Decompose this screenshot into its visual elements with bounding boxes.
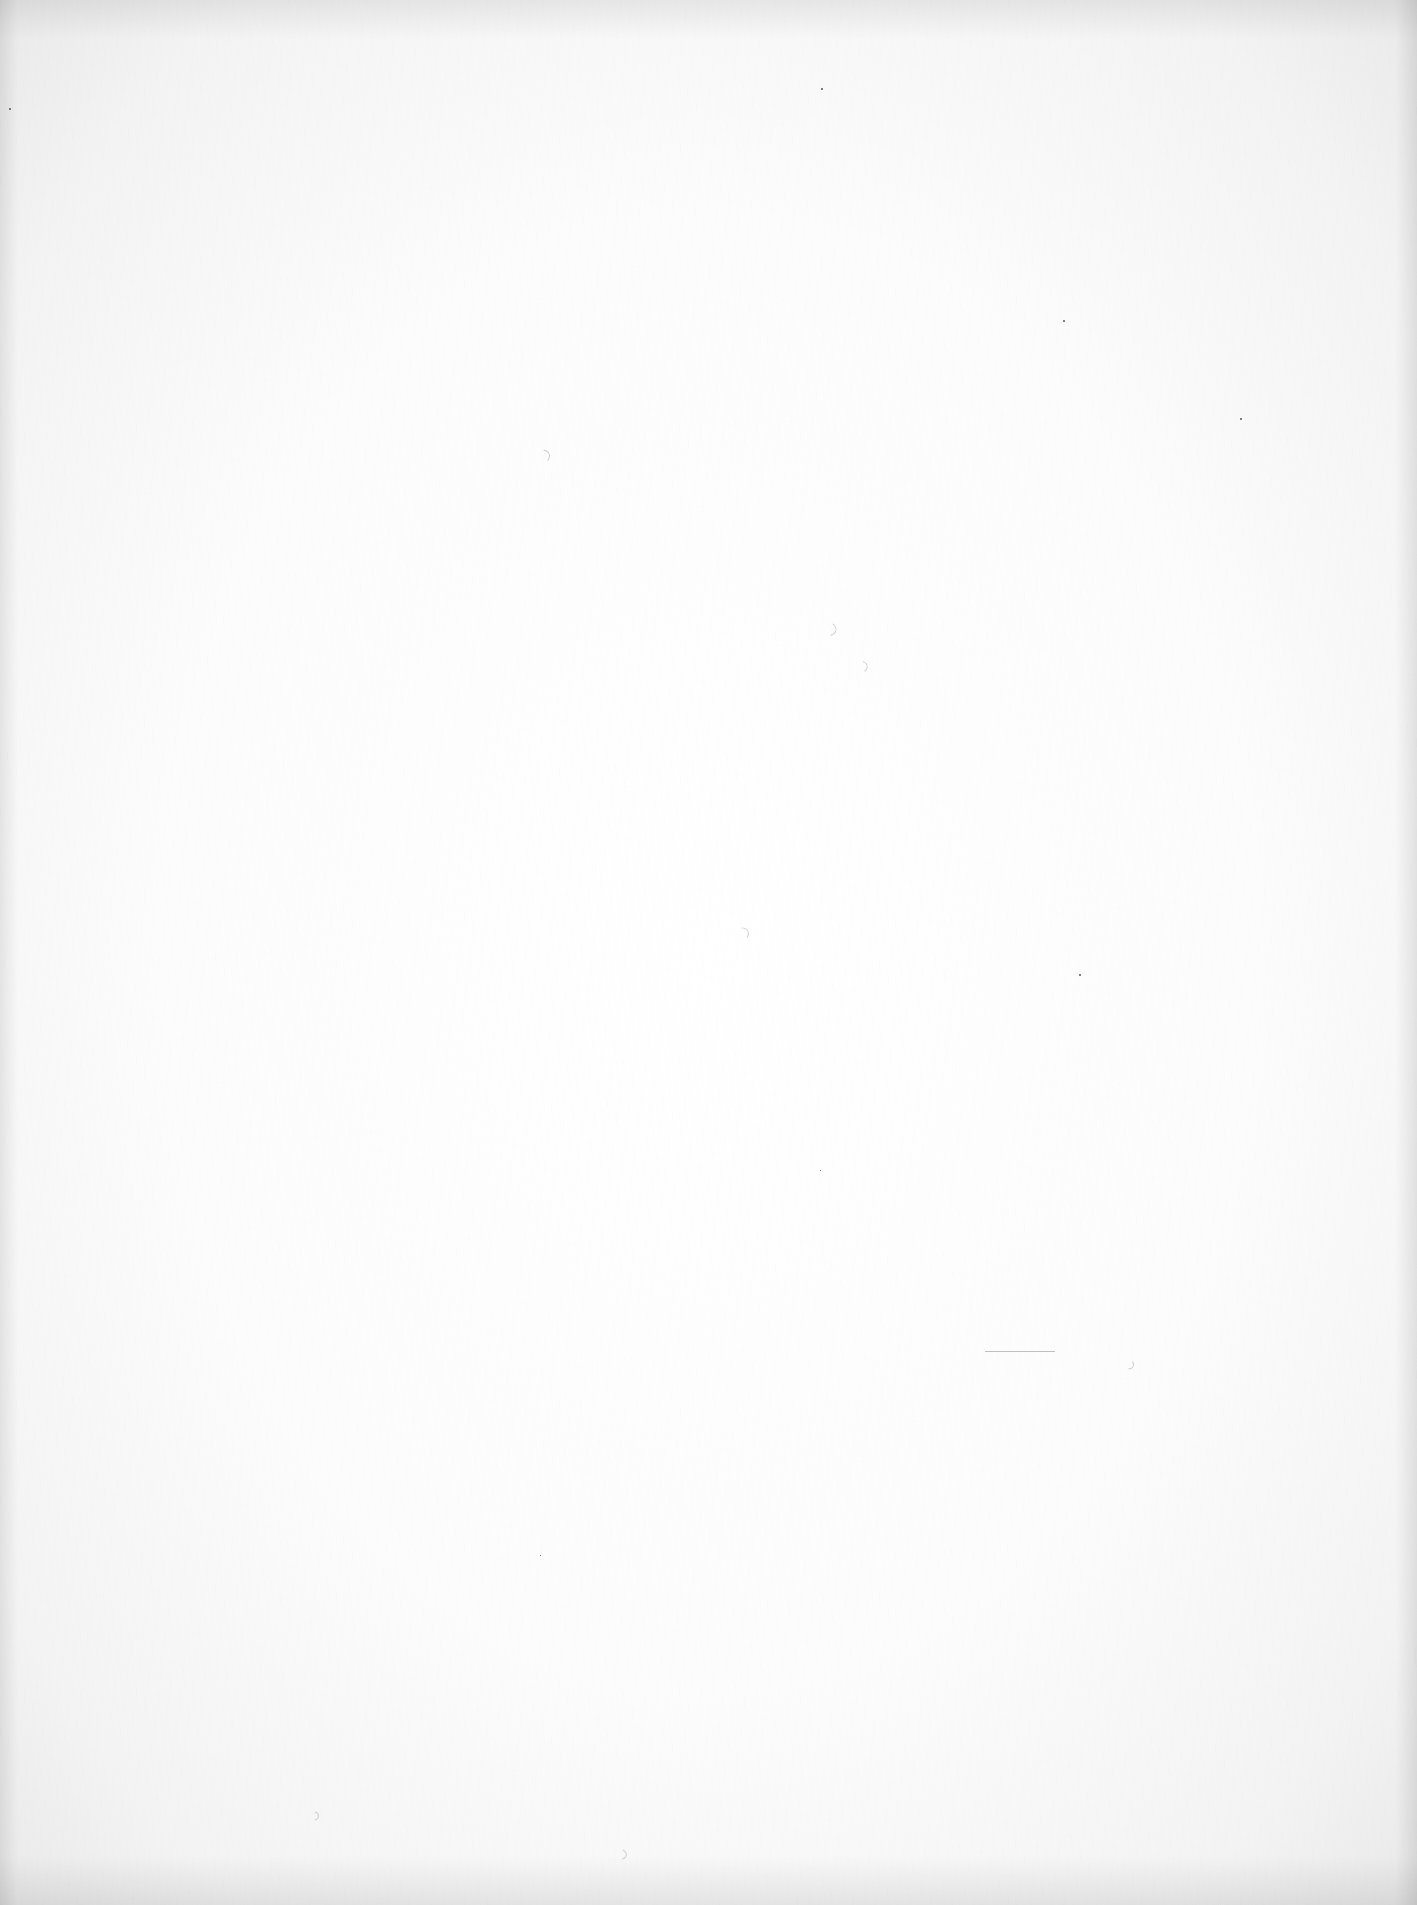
paper-fiber [277, 1808, 319, 1824]
faint-pencil-mark [985, 1351, 1055, 1352]
dust-speck [540, 1555, 541, 1556]
dust-speck [820, 1170, 821, 1171]
dust-speck [9, 108, 11, 110]
dust-speck [1079, 974, 1081, 976]
blank-paper-page [0, 0, 1417, 1905]
dust-speck [821, 88, 823, 90]
dust-speck [1240, 418, 1242, 420]
paper-texture [0, 0, 1417, 1905]
dust-speck [1063, 320, 1065, 322]
